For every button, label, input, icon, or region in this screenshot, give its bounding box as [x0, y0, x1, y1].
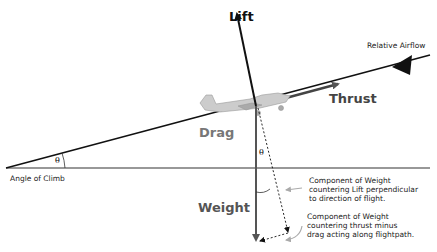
thrust-label: Thrust [329, 91, 377, 106]
lift-arrow [237, 14, 256, 106]
pointer-arrow-perpendicular [286, 188, 302, 190]
lift-label: Lift [229, 9, 254, 24]
angle-arc-left [62, 153, 65, 168]
pointer-arrow-along [286, 226, 302, 240]
relative-airflow-label: Relative Airflow [367, 41, 425, 50]
angle-of-climb-label: Angle of Climb [10, 174, 65, 183]
component-perpendicular-note: Component of Weight countering Lift perp… [309, 176, 418, 203]
angle-arc-right [256, 189, 270, 193]
along-path-component-arrow [260, 233, 288, 241]
theta-right-label: θ [259, 148, 264, 157]
drag-label: Drag [199, 125, 234, 140]
weight-label: Weight [198, 200, 250, 215]
component-along-note: Component of Weight countering thrust mi… [307, 212, 414, 239]
theta-left-label: θ [55, 156, 60, 165]
perpendicular-component-arrow [258, 108, 288, 232]
